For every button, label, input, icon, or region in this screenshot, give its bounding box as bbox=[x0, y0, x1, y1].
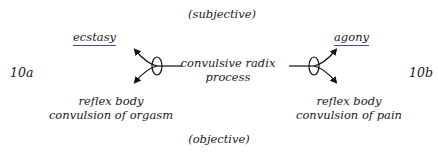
diagram-arrows bbox=[0, 0, 438, 155]
right-split-arrow-icon bbox=[289, 51, 335, 81]
left-split-arrow-icon bbox=[136, 51, 182, 81]
